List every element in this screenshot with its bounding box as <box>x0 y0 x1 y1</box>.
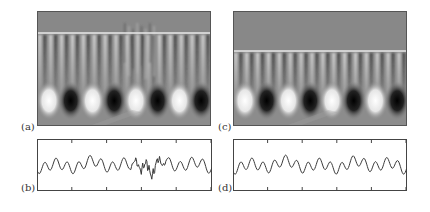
panel-label-b: (b) <box>21 183 35 193</box>
panel-label-c: (c) <box>218 122 231 132</box>
panel-label-d: (d) <box>218 183 232 193</box>
panel-b-waveform <box>37 139 212 191</box>
waveform-plot-d <box>233 139 407 191</box>
field-image-a <box>37 11 211 126</box>
panel-label-a: (a) <box>21 122 35 132</box>
panel-a-field-image <box>37 11 211 126</box>
waveform-plot-b <box>37 139 212 191</box>
field-image-c <box>233 11 407 126</box>
panel-d-waveform <box>233 139 407 191</box>
panel-c-field-image <box>233 11 407 126</box>
